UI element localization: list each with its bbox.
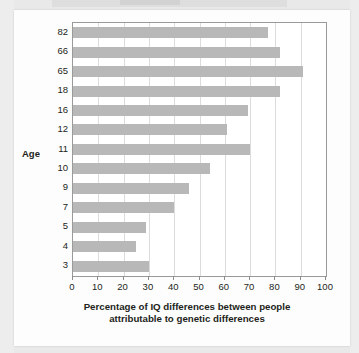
x-tick-label-40: 40 xyxy=(168,281,179,292)
bar-row xyxy=(73,101,326,120)
x-tick-label-70: 70 xyxy=(244,281,255,292)
bar-row xyxy=(73,62,326,81)
bar-age-82 xyxy=(73,27,268,38)
bar-row xyxy=(73,198,326,217)
figure-card: Age 826665181612111097543 01020304050607… xyxy=(14,10,350,346)
x-tick-10 xyxy=(97,276,98,280)
x-tick-70 xyxy=(249,276,250,280)
y-tick-label-16: 16 xyxy=(57,105,68,115)
bar-row xyxy=(73,159,326,178)
y-tick-label-18: 18 xyxy=(57,85,68,95)
bar-age-12 xyxy=(73,124,227,135)
bar-row xyxy=(73,23,326,42)
plot-area xyxy=(72,22,327,277)
x-tick-label-0: 0 xyxy=(69,281,74,292)
y-tick-label-5: 5 xyxy=(63,221,68,231)
x-tick-label-60: 60 xyxy=(219,281,230,292)
y-tick-label-9: 9 xyxy=(63,182,68,192)
x-tick-30 xyxy=(148,276,149,280)
x-tick-label-10: 10 xyxy=(92,281,103,292)
bar-age-7 xyxy=(73,202,174,213)
y-tick-label-7: 7 xyxy=(63,202,68,212)
page-right-margin xyxy=(350,0,359,353)
y-tick-label-66: 66 xyxy=(57,46,68,56)
x-axis-title: Percentage of IQ differences between peo… xyxy=(42,301,332,325)
bar-row xyxy=(73,81,326,100)
bar-row xyxy=(73,120,326,139)
y-tick-label-65: 65 xyxy=(57,66,68,76)
x-tick-60 xyxy=(224,276,225,280)
bar-row xyxy=(73,42,326,61)
bars-layer xyxy=(73,23,326,276)
bar-row xyxy=(73,256,326,275)
bar-age-3 xyxy=(73,261,149,272)
x-tick-90 xyxy=(300,276,301,280)
x-tick-label-50: 50 xyxy=(193,281,204,292)
x-tick-label-90: 90 xyxy=(294,281,305,292)
bar-age-5 xyxy=(73,222,146,233)
x-tick-0 xyxy=(72,276,73,280)
y-tick-label-11: 11 xyxy=(58,144,68,154)
bar-age-66 xyxy=(73,47,280,58)
y-tick-label-10: 10 xyxy=(57,163,68,173)
bar-row xyxy=(73,140,326,159)
x-tick-80 xyxy=(274,276,275,280)
x-tick-label-30: 30 xyxy=(143,281,154,292)
x-tick-label-100: 100 xyxy=(317,281,333,292)
bar-age-9 xyxy=(73,183,189,194)
page-left-margin xyxy=(0,0,14,353)
x-tick-label-20: 20 xyxy=(117,281,128,292)
bar-row xyxy=(73,218,326,237)
x-axis-title-line-1: Percentage of IQ differences between peo… xyxy=(42,301,332,313)
x-tick-label-80: 80 xyxy=(269,281,280,292)
y-tick-label-12: 12 xyxy=(57,124,68,134)
chart-page: Age 826665181612111097543 01020304050607… xyxy=(0,0,359,353)
bar-age-65 xyxy=(73,66,303,77)
bar-row xyxy=(73,237,326,256)
bar-age-4 xyxy=(73,241,136,252)
x-axis-title-line-2: attributable to genetic differences xyxy=(42,313,332,325)
x-axis-tick-labels: 0102030405060708090100 xyxy=(72,281,325,295)
y-tick-label-4: 4 xyxy=(63,241,68,251)
scan-artifact-band-inner xyxy=(120,0,180,5)
bar-age-18 xyxy=(73,86,280,97)
x-tick-50 xyxy=(199,276,200,280)
bar-age-16 xyxy=(73,105,248,116)
y-tick-label-3: 3 xyxy=(63,260,68,270)
x-tick-100 xyxy=(325,276,326,280)
bar-age-10 xyxy=(73,163,210,174)
x-tick-20 xyxy=(123,276,124,280)
x-tick-40 xyxy=(173,276,174,280)
y-axis-tick-labels: 826665181612111097543 xyxy=(32,10,68,263)
bar-row xyxy=(73,179,326,198)
y-tick-label-82: 82 xyxy=(57,27,68,37)
bar-age-11 xyxy=(73,144,250,155)
